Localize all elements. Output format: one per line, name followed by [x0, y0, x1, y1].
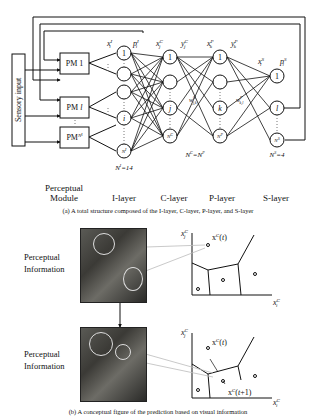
svg-text:NS=4: NS=4 — [269, 150, 285, 159]
svg-text:xPk: xPk — [206, 39, 214, 49]
svg-text:1: 1 — [218, 53, 222, 62]
svg-text:xCj: xCj — [180, 229, 189, 239]
svg-text:xCj: xCj — [180, 328, 189, 338]
svg-text:pSl: pSl — [279, 57, 287, 67]
svg-text:pIi: pIi — [132, 39, 139, 49]
svg-text:1: 1 — [168, 53, 172, 62]
svg-text:k: k — [218, 104, 222, 113]
svg-text:Module: Module — [50, 193, 78, 203]
svg-text:PM l: PM l — [67, 103, 84, 112]
voronoi-plot-1 — [192, 233, 272, 295]
perceptual-information-label-1: Perceptual Information — [24, 252, 65, 274]
svg-text:S-layer: S-layer — [263, 193, 289, 203]
perceptual-information-label-2: Perceptual Information — [24, 349, 65, 371]
svg-text:xCj: xCj — [155, 39, 164, 49]
layer-names: Perceptual Module I-layer C-layer P-laye… — [45, 183, 289, 203]
sensory-input-label: Sensory input — [14, 77, 23, 122]
svg-text:PM 1: PM 1 — [66, 59, 84, 68]
svg-text:xC(t): xC(t) — [212, 233, 227, 242]
svg-text:Perceptual: Perceptual — [24, 349, 61, 359]
figure-canvas: 1 i NI 1 j NC 1 k NP 1 l NS xIi pIi xCj … — [0, 0, 315, 420]
svg-text:C-layer: C-layer — [161, 193, 188, 203]
count-labels: NI=14 NC=NP NS=4 — [114, 150, 285, 172]
svg-text:i: i — [123, 114, 125, 123]
svg-text:xCi: xCi — [272, 398, 281, 408]
svg-text:P-layer: P-layer — [209, 193, 235, 203]
caption-a: (a) A total structure composed of the I-… — [63, 207, 255, 215]
axis-labels-1: xCj xC(t) xCi — [180, 229, 281, 308]
svg-text:I-layer: I-layer — [112, 193, 136, 203]
svg-text:xC(t+1): xC(t+1) — [228, 388, 252, 397]
svg-text:NI=14: NI=14 — [114, 163, 133, 172]
svg-text:Perceptual: Perceptual — [24, 252, 61, 262]
svg-text:yPk: yPk — [230, 39, 238, 49]
svg-text:NC=NP: NC=NP — [184, 150, 205, 159]
svg-text:xC(t): xC(t) — [212, 338, 227, 347]
camera-photo-1 — [80, 228, 147, 303]
svg-text:wPk,l: wPk,l — [236, 95, 244, 106]
svg-text:Information: Information — [24, 361, 65, 371]
svg-text:xCi: xCi — [272, 298, 281, 308]
svg-text:1: 1 — [275, 72, 279, 81]
camera-photo-2 — [80, 327, 147, 402]
svg-text:Information: Information — [24, 264, 65, 274]
svg-text:wCj,k: wCj,k — [189, 95, 197, 106]
svg-text:1: 1 — [122, 49, 126, 58]
svg-text:yCj: yCj — [180, 39, 189, 49]
caption-b: (b) A conceptual figure of the predictio… — [69, 408, 248, 416]
svg-text:xIi: xIi — [106, 39, 113, 49]
svg-text:xSl: xSl — [257, 57, 265, 67]
svg-text:Perceptual: Perceptual — [45, 183, 83, 193]
